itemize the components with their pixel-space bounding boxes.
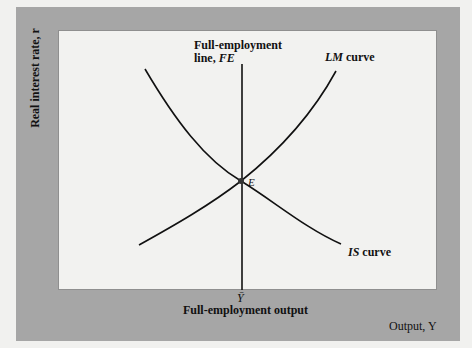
is-curve bbox=[145, 69, 341, 244]
x-axis-label: Output, Y bbox=[389, 320, 437, 333]
y-axis-label: Real interest rate, r bbox=[28, 28, 43, 128]
equilibrium-label: E bbox=[248, 176, 255, 189]
fe-label: Full-employment line, FE bbox=[194, 39, 282, 65]
equilibrium-point bbox=[238, 178, 244, 184]
ybar-caption: Full-employment output bbox=[183, 304, 308, 317]
fe-label-line2: line, FE bbox=[194, 52, 282, 65]
lm-curve bbox=[139, 71, 336, 245]
lm-label: LM curve bbox=[325, 51, 375, 64]
is-label: IS curve bbox=[348, 246, 391, 259]
